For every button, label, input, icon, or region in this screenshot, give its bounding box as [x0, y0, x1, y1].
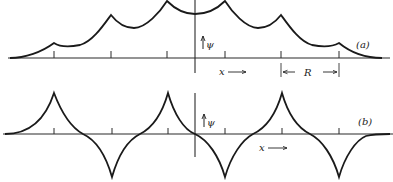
- wavefunction-diagram: ψ (a) x R ψ (b): [0, 0, 393, 182]
- panel-a-spacing-label: R: [303, 67, 312, 78]
- panel-a-wavefunction-curve: [10, 1, 382, 58]
- panel-a-x-label: x: [219, 66, 225, 77]
- panel-b-x-label: x: [259, 142, 265, 153]
- panel-a-psi-label: ψ: [206, 39, 214, 50]
- panel-b-psi-label: ψ: [207, 117, 215, 128]
- panel-b-label: (b): [358, 116, 372, 127]
- panel-b-ticks: [54, 128, 339, 134]
- panel-a: ψ (a) x R: [8, 0, 390, 78]
- panel-b: ψ (b) x: [3, 93, 393, 177]
- panel-b-wavefunction-curve: [5, 93, 390, 177]
- panel-a-label: (a): [356, 39, 370, 50]
- panel-a-ticks: [54, 51, 339, 58]
- panel-a-spacing-bracket: R: [281, 63, 339, 78]
